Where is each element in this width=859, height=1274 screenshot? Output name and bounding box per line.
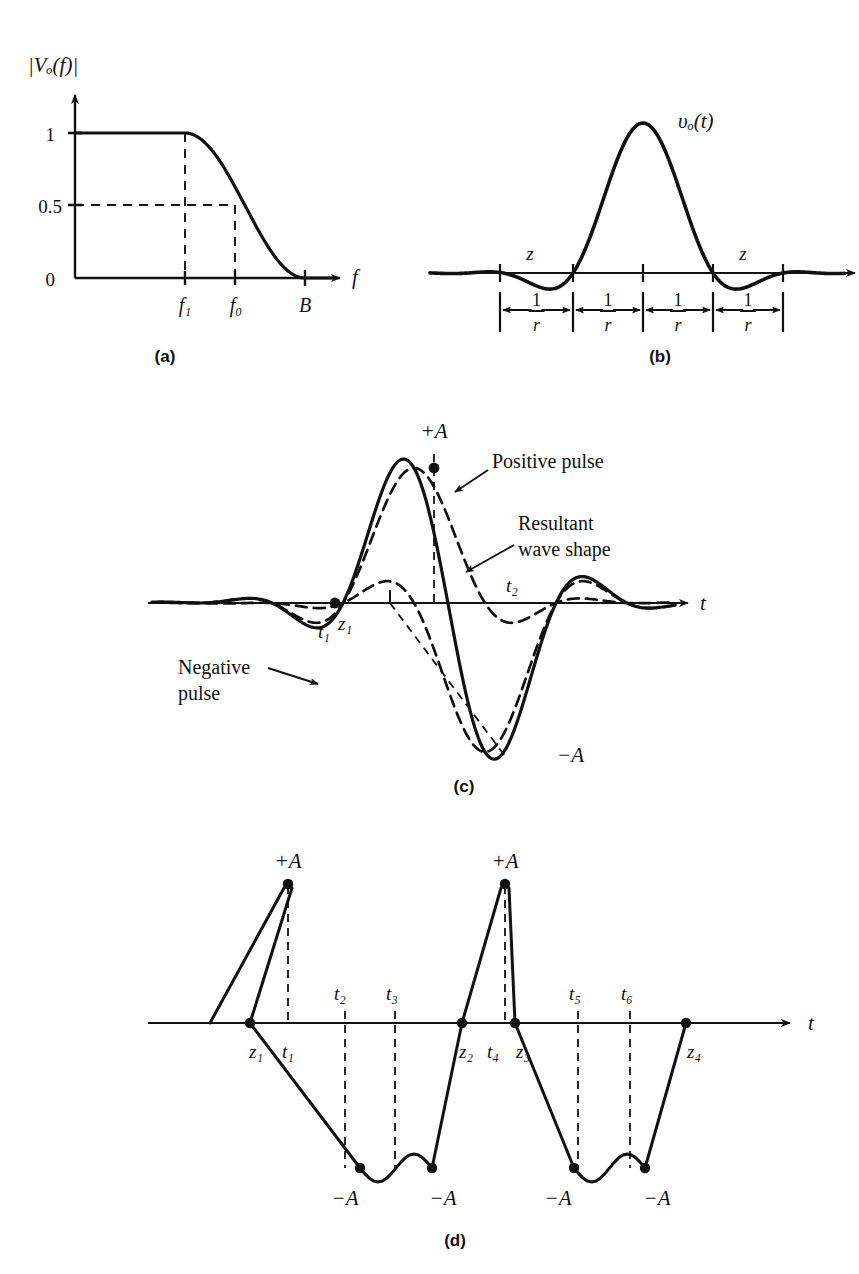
panel-b-zero-label-left: z <box>525 243 534 264</box>
panel-d-zero-dot-2 <box>457 1018 467 1028</box>
panel-d-label-minus-a-1: −A <box>332 1186 359 1210</box>
dim-label-denominator-2: r <box>604 315 612 335</box>
panel-c-label-plus-a: +A <box>421 419 448 443</box>
panel-a-ytick-label-half: 0.5 <box>38 196 62 217</box>
panel-d-label-minus-a-2: −A <box>430 1186 457 1210</box>
panel-d-label-t3: t₃ <box>386 983 398 1004</box>
panel-b-caption: (b) <box>649 347 671 366</box>
panel-c-caption: (c) <box>454 777 475 796</box>
panel-d-zero-dot-4 <box>681 1018 691 1028</box>
panel-a-ytick-label-1: 1 <box>46 124 56 145</box>
panel-d-label-t1: t₁ <box>282 1041 294 1062</box>
panel-a-xtick-label-f1: f₁ <box>179 294 192 317</box>
panel-c-label-t1: t₁ <box>318 621 330 642</box>
panel-d-peak-dot-2 <box>500 879 510 889</box>
dim-label-denominator-4: r <box>744 315 752 335</box>
panel-d-label-minus-a-4: −A <box>644 1186 671 1210</box>
annotation-negative-line2: pulse <box>178 682 220 705</box>
panel-a-caption: (a) <box>155 347 176 366</box>
dim-label-numerator-2: 1 <box>604 290 613 310</box>
panel-d-label-z4: z₄ <box>686 1041 701 1062</box>
panel-c-label-z1: z₁ <box>337 613 352 634</box>
panel-d-label-t5: t₅ <box>569 983 581 1004</box>
panel-c-label-minus-a: −A <box>557 743 584 767</box>
panel-c-label-t2: t₂ <box>506 575 518 596</box>
panel-d-trough-dot-1 <box>355 1163 365 1173</box>
panel-b-signal-label: υₒ(t) <box>678 109 713 133</box>
annotation-resultant-line1: Resultant <box>518 512 594 534</box>
dim-label-numerator-4: 1 <box>744 290 753 310</box>
panel-d-zero-dot-3 <box>510 1018 520 1028</box>
panel-a-yaxis-label: |Vₒ(f)| <box>28 53 78 77</box>
peak-marker-dot <box>429 463 440 474</box>
panel-d-label-t2: t₂ <box>334 983 346 1004</box>
panel-d-label-z1: z₁ <box>248 1041 263 1062</box>
panel-d-caption: (d) <box>444 1231 466 1250</box>
panel-d-label-minus-a-3: −A <box>545 1186 572 1210</box>
figure-container: |Vₒ(f)| f 1 0.5 0 f₁ f₀ B (a) υₒ(t) z z … <box>0 0 859 1274</box>
panel-d-label-plus-a-1: +A <box>275 849 302 873</box>
annotation-positive-pulse: Positive pulse <box>492 450 604 473</box>
panel-d-label-t4: t₄ <box>487 1041 499 1062</box>
panel-d-label-z2: z₂ <box>458 1041 473 1062</box>
dim-label-numerator-1: 1 <box>532 290 541 310</box>
panel-b-zero-label-right: z <box>738 243 747 264</box>
annotation-negative-line1: Negative <box>178 656 250 679</box>
annotation-resultant-line2: wave shape <box>518 538 611 561</box>
panel-d-label-t6: t₆ <box>621 983 633 1004</box>
panel-a-xtick-label-B: B <box>299 294 311 316</box>
panel-d-trough-dot-4 <box>640 1163 650 1173</box>
zero-marker-dot <box>330 598 341 609</box>
dim-label-denominator-3: r <box>674 315 682 335</box>
figure-svg: |Vₒ(f)| f 1 0.5 0 f₁ f₀ B (a) υₒ(t) z z … <box>0 0 859 1274</box>
panel-a-xtick-label-f0: f₀ <box>230 294 243 317</box>
panel-d-peak-dot-1 <box>283 879 293 889</box>
panel-d-label-plus-a-2: +A <box>492 849 519 873</box>
panel-a-ytick-label-0: 0 <box>46 269 56 290</box>
panel-d-trough-dot-2 <box>427 1163 437 1173</box>
panel-d-label-z3: z₃ <box>515 1041 530 1062</box>
dim-label-numerator-3: 1 <box>674 290 683 310</box>
panel-d-trough-dot-3 <box>569 1163 579 1173</box>
dim-label-denominator-1: r <box>533 315 541 335</box>
panel-d-zero-dot-1 <box>245 1018 255 1028</box>
